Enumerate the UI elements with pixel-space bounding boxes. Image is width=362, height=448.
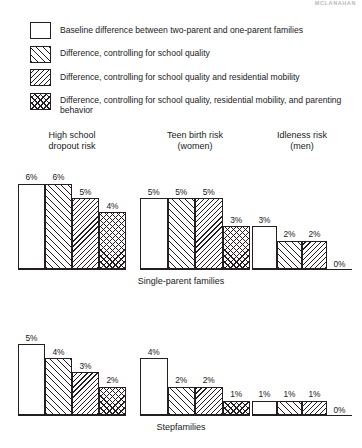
chart-page: MCLANAHAN Baseline difference between tw…	[0, 0, 362, 448]
plot-area: 4%2%2%1%	[140, 309, 250, 416]
plot-area: 3%2%2%0%	[252, 158, 352, 270]
legend-item-2: Difference, controlling for school quali…	[30, 69, 360, 86]
bar-rect	[45, 184, 72, 269]
chart-legend: Baseline difference between two-parent a…	[30, 22, 360, 122]
group-title-line2: (women)	[140, 141, 250, 152]
bar-2[interactable]: 1%	[302, 309, 327, 415]
group-title-line1: Idleness risk	[252, 130, 352, 141]
bar-rect	[140, 198, 168, 269]
bar-rect	[72, 198, 99, 269]
bar-2[interactable]: 5%	[195, 158, 223, 269]
bar-0[interactable]: 5%	[18, 309, 45, 415]
bar-0[interactable]: 3%	[252, 158, 277, 269]
baseline-axis	[252, 415, 352, 416]
bars-container: 4%2%2%1%	[140, 309, 250, 415]
bar-value-label: 2%	[302, 230, 327, 239]
bar-rect	[223, 401, 251, 415]
bar-rect	[195, 387, 223, 415]
bar-value-label: 5%	[195, 188, 223, 197]
bar-1[interactable]: 1%	[277, 309, 302, 415]
bar-group: 4%2%2%1%	[140, 305, 250, 416]
plot-area: 6%6%5%4%	[18, 158, 126, 270]
bar-value-label: 5%	[140, 188, 168, 197]
bar-3[interactable]: 3%	[223, 158, 251, 269]
baseline-axis	[252, 269, 352, 270]
bar-rect	[140, 358, 168, 415]
baseline-axis	[18, 415, 126, 416]
bar-value-label: 3%	[223, 216, 251, 225]
bar-group: Idleness risk(men)3%2%2%0%	[252, 130, 352, 270]
bar-rect	[168, 198, 196, 269]
panel-label: Stepfamilies	[0, 422, 362, 433]
bar-value-label: 2%	[99, 376, 126, 385]
group-title-line1: High school	[18, 130, 126, 141]
panel-single-parent-families: High schooldropout risk6%6%5%4%Teen birt…	[0, 130, 362, 300]
bar-1[interactable]: 2%	[168, 309, 196, 415]
backward-hatch-swatch-icon	[30, 69, 51, 86]
bar-rect	[277, 241, 302, 269]
bar-3[interactable]: 1%	[223, 309, 251, 415]
group-title-line2: (men)	[252, 141, 352, 152]
bar-1[interactable]: 6%	[45, 158, 72, 269]
bar-3[interactable]: 2%	[99, 309, 126, 415]
bar-2[interactable]: 2%	[302, 158, 327, 269]
group-title-line1: Teen birth risk	[140, 130, 250, 141]
bar-value-label: 1%	[302, 390, 327, 399]
bar-rect	[18, 344, 45, 415]
bar-rect	[99, 212, 126, 269]
bar-rect	[252, 226, 277, 269]
bar-value-label: 5%	[168, 188, 196, 197]
legend-item-label: Difference, controlling for school quali…	[60, 46, 210, 59]
legend-item-3: Difference, controlling for school quali…	[30, 93, 360, 116]
bar-rect	[252, 401, 277, 415]
bar-value-label: 1%	[223, 390, 251, 399]
bar-1[interactable]: 4%	[45, 309, 72, 415]
bar-value-label: 1%	[277, 390, 302, 399]
bar-rect	[168, 387, 196, 415]
running-header: MCLANAHAN	[315, 0, 356, 7]
bar-3[interactable]: 0%	[327, 309, 352, 415]
bars-container: 6%6%5%4%	[18, 158, 126, 269]
panel-label: Single-parent families	[0, 276, 362, 287]
bar-0[interactable]: 1%	[252, 309, 277, 415]
bar-3[interactable]: 0%	[327, 158, 352, 269]
bar-value-label: 3%	[252, 216, 277, 225]
bar-group: 1%1%1%0%	[252, 305, 352, 416]
bar-value-label: 5%	[72, 188, 99, 197]
baseline-axis	[140, 269, 250, 270]
baseline-axis	[140, 415, 250, 416]
bars-container: 5%5%5%3%	[140, 158, 250, 269]
bar-rect	[72, 372, 99, 415]
bar-0[interactable]: 4%	[140, 309, 168, 415]
bar-0[interactable]: 5%	[140, 158, 168, 269]
bar-value-label: 2%	[195, 376, 223, 385]
legend-item-label: Difference, controlling for school quali…	[60, 69, 300, 82]
bar-group: High schooldropout risk6%6%5%4%	[18, 130, 126, 270]
bar-rect	[99, 387, 126, 415]
plot-area: 5%4%3%2%	[18, 309, 126, 416]
bars-container: 3%2%2%0%	[252, 158, 352, 269]
bar-1[interactable]: 5%	[168, 158, 196, 269]
forward-hatch-swatch-icon	[30, 46, 51, 63]
bar-1[interactable]: 2%	[277, 158, 302, 269]
baseline-axis	[18, 269, 126, 270]
panel-stepfamilies: 5%4%3%2%4%2%2%1%1%1%1%0%Stepfamilies	[0, 305, 362, 448]
bar-rect	[302, 241, 327, 269]
bar-value-label: 1%	[252, 390, 277, 399]
bar-group: Teen birth risk(women)5%5%5%3%	[140, 130, 250, 270]
bar-0[interactable]: 6%	[18, 158, 45, 269]
bar-2[interactable]: 5%	[72, 158, 99, 269]
bar-rect	[18, 184, 45, 269]
blank-swatch-icon	[30, 22, 51, 39]
crosshatch-swatch-icon	[30, 93, 51, 110]
bar-value-label: 2%	[277, 230, 302, 239]
legend-item-0: Baseline difference between two-parent a…	[30, 22, 360, 39]
bars-container: 1%1%1%0%	[252, 309, 352, 415]
bar-3[interactable]: 4%	[99, 158, 126, 269]
bar-2[interactable]: 3%	[72, 309, 99, 415]
legend-item-label: Baseline difference between two-parent a…	[60, 22, 303, 35]
bar-value-label: 4%	[99, 202, 126, 211]
bar-2[interactable]: 2%	[195, 309, 223, 415]
bar-group: 5%4%3%2%	[18, 305, 126, 416]
bar-rect	[277, 401, 302, 415]
